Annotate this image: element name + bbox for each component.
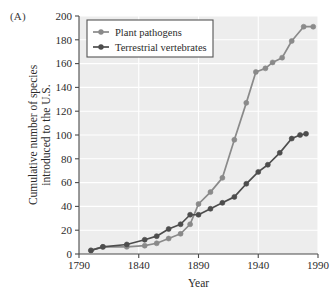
y-tick-label: 40 (61, 200, 73, 212)
x-tick-label: 1840 (128, 259, 151, 271)
x-tick-label: 1790 (68, 259, 91, 271)
data-point (289, 38, 294, 43)
data-point (100, 244, 105, 249)
data-point (166, 236, 171, 241)
data-point (188, 222, 193, 227)
data-point (301, 24, 306, 29)
data-point (196, 212, 201, 217)
y-tick-label: 140 (56, 81, 73, 93)
y-tick-label: 100 (56, 129, 73, 141)
data-point (220, 175, 225, 180)
y-tick-label: 180 (56, 34, 73, 46)
data-point (154, 241, 159, 246)
data-point (244, 181, 249, 186)
data-point (263, 66, 268, 71)
data-point (232, 194, 237, 199)
y-tick-label: 160 (56, 57, 73, 69)
legend-marker-icon (98, 29, 103, 34)
figure-panel-a: (A) 020406080100120140160180200179018401… (0, 0, 331, 294)
x-tick-label: 1940 (247, 259, 270, 271)
x-tick-label: 1890 (188, 259, 211, 271)
legend-label: Terrestrial vertebrates (115, 42, 207, 53)
data-point (277, 150, 282, 155)
y-tick-label: 200 (56, 10, 73, 22)
data-point (265, 162, 270, 167)
data-point (280, 55, 285, 60)
y-tick-label: 120 (56, 105, 73, 117)
legend-marker-icon (98, 44, 103, 49)
y-axis-title-line2: introduced to the U.S. (40, 84, 52, 185)
data-point (208, 206, 213, 211)
data-point (253, 69, 258, 74)
line-chart: 0204060801001201401601802001790184018901… (0, 0, 331, 294)
data-point (298, 133, 303, 138)
data-point (142, 243, 147, 248)
x-axis-title: Year (188, 277, 209, 289)
data-point (220, 200, 225, 205)
y-tick-label: 80 (61, 153, 73, 165)
data-point (88, 248, 93, 253)
x-tick-label: 1990 (307, 259, 330, 271)
data-point (178, 222, 183, 227)
data-point (256, 169, 261, 174)
data-point (208, 190, 213, 195)
data-point (270, 60, 275, 65)
data-point (232, 137, 237, 142)
y-tick-label: 0 (67, 248, 73, 260)
data-point (154, 234, 159, 239)
y-axis-title-line1: Cumulative number of species (27, 64, 40, 205)
legend-label: Plant pathogens (115, 27, 182, 38)
data-point (311, 24, 316, 29)
data-point (124, 242, 129, 247)
data-point (142, 237, 147, 242)
data-point (178, 231, 183, 236)
data-point (304, 131, 309, 136)
y-tick-label: 20 (61, 224, 73, 236)
data-point (188, 212, 193, 217)
y-tick-label: 60 (61, 176, 73, 188)
data-point (166, 227, 171, 232)
data-point (196, 202, 201, 207)
y-axis-title: Cumulative number of speciesintroduced t… (27, 64, 52, 205)
data-point (289, 136, 294, 141)
data-point (244, 100, 249, 105)
chart-legend: Plant pathogensTerrestrial vertebrates (87, 20, 213, 57)
